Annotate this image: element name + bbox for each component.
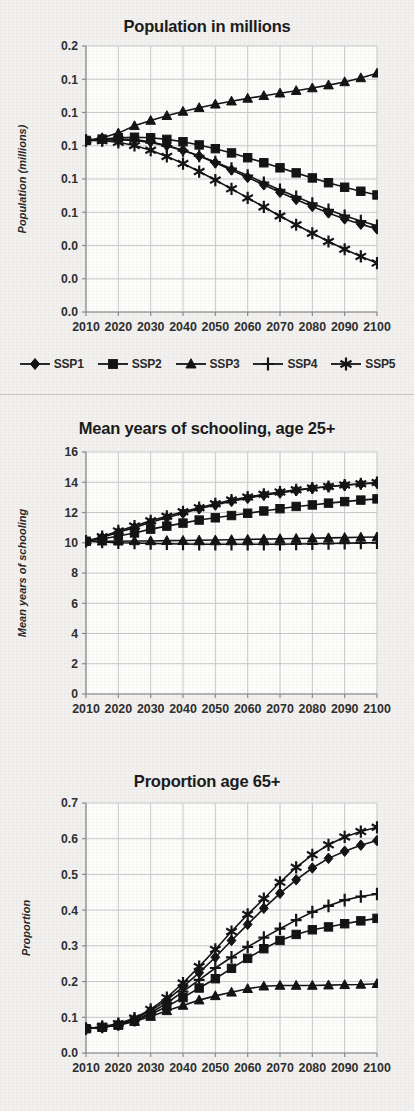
y-axis-tick-label: 0.1 — [61, 73, 78, 87]
legend-marker-asterisk-icon — [330, 356, 362, 372]
x-axis-tick-label: 2050 — [202, 320, 230, 334]
legend-marker-square-icon — [97, 356, 129, 372]
marker-square — [195, 516, 203, 524]
x-axis-tick-label: 2100 — [363, 702, 391, 716]
marker-square — [211, 975, 219, 983]
x-axis-tick-label: 2040 — [169, 320, 197, 334]
y-axis-tick-label: 0.3 — [61, 939, 78, 953]
marker-square — [308, 174, 316, 182]
marker-square — [292, 930, 300, 938]
x-axis-tick-label: 2010 — [72, 320, 100, 334]
marker-square — [163, 522, 171, 530]
marker-square — [227, 964, 235, 972]
legend-label: SSP2 — [132, 357, 162, 371]
x-axis-tick-label: 2090 — [331, 702, 359, 716]
x-axis-tick-label: 2050 — [202, 702, 230, 716]
x-axis-tick-label: 2060 — [234, 320, 262, 334]
marker-square — [243, 954, 251, 962]
marker-square — [324, 499, 332, 507]
marker-square — [243, 509, 251, 517]
marker-square — [227, 149, 235, 157]
chart-panel-population: Population in millions 0.20.10.10.10.10.… — [0, 0, 414, 395]
legend: SSP1SSP2SSP3SSP4SSP5 — [0, 356, 414, 372]
marker-square — [108, 360, 117, 369]
marker-square — [179, 519, 187, 527]
marker-square — [340, 920, 348, 928]
marker-square — [260, 945, 268, 953]
y-axis-tick-label: 0.1 — [61, 106, 78, 120]
marker-square — [357, 187, 365, 195]
y-axis-tick-label: 0.7 — [61, 796, 78, 810]
y-axis-tick-label: 6 — [71, 597, 78, 611]
chart-plot-proportion: 0.70.60.50.40.30.20.10.02010202020302040… — [0, 791, 414, 1111]
marker-square — [373, 914, 381, 922]
chart-title-population: Population in millions — [0, 0, 414, 36]
y-axis-tick-label: 16 — [64, 445, 78, 459]
y-axis-tick-label: 0.4 — [61, 904, 78, 918]
x-axis-tick-label: 2070 — [266, 1061, 294, 1075]
marker-square — [308, 501, 316, 509]
y-axis-tick-label: 14 — [64, 476, 78, 490]
marker-square — [308, 926, 316, 934]
x-axis-tick-label: 2010 — [72, 702, 100, 716]
y-axis-tick-label: 0.1 — [61, 139, 78, 153]
marker-square — [324, 923, 332, 931]
chart-plot-schooling: 1614121086420201020202030204020502060207… — [0, 438, 414, 738]
y-axis-tick-label: 4 — [71, 627, 78, 641]
marker-square — [357, 917, 365, 925]
chart-title-schooling: Mean years of schooling, age 25+ — [0, 395, 414, 438]
x-axis-tick-label: 2040 — [169, 702, 197, 716]
y-axis-tick-label: 2 — [71, 657, 78, 671]
x-axis-tick-label: 2090 — [331, 320, 359, 334]
y-axis-title: Mean years of schooling — [16, 509, 28, 638]
legend-item-ssp5[interactable]: SSP5 — [330, 356, 395, 372]
x-axis-tick-label: 2020 — [105, 702, 133, 716]
legend-item-ssp3[interactable]: SSP3 — [175, 356, 240, 372]
marker-square — [373, 191, 381, 199]
chart-plot-population: 0.20.10.10.10.10.10.00.00.02010202020302… — [0, 36, 414, 351]
x-axis-tick-label: 2040 — [169, 1061, 197, 1075]
x-axis-tick-label: 2090 — [331, 1061, 359, 1075]
x-axis-tick-label: 2070 — [266, 702, 294, 716]
legend-item-ssp4[interactable]: SSP4 — [252, 356, 317, 372]
x-axis-tick-label: 2010 — [72, 1061, 100, 1075]
legend-label: SSP3 — [210, 357, 240, 371]
y-axis-tick-label: 10 — [64, 536, 78, 550]
y-axis-tick-label: 0.6 — [61, 832, 78, 846]
y-axis-tick-label: 0.1 — [61, 172, 78, 186]
y-axis-title: Proportion — [20, 900, 32, 956]
chart-panel-schooling: Mean years of schooling, age 25+ 1614121… — [0, 395, 414, 740]
legend-label: SSP1 — [54, 357, 84, 371]
x-axis-tick-label: 2080 — [299, 320, 327, 334]
y-axis-title: Population (millions) — [16, 124, 28, 233]
marker-square — [276, 164, 284, 172]
x-axis-tick-label: 2020 — [105, 320, 133, 334]
legend-item-ssp1[interactable]: SSP1 — [19, 356, 84, 372]
marker-square — [211, 514, 219, 522]
legend-item-ssp2[interactable]: SSP2 — [97, 356, 162, 372]
y-axis-tick-label: 0.1 — [61, 1011, 78, 1025]
schooling-line-chart: 1614121086420201020202030204020502060207… — [0, 438, 414, 738]
x-axis-tick-label: 2080 — [299, 702, 327, 716]
y-axis-tick-label: 0.0 — [61, 239, 78, 253]
chart-panel-proportion: Proportion age 65+ 0.70.60.50.40.30.20.1… — [0, 740, 414, 1111]
legend-marker-triangle-icon — [175, 356, 207, 372]
marker-square — [227, 511, 235, 519]
legend-label: SSP5 — [365, 357, 395, 371]
marker-square — [243, 154, 251, 162]
legend-label: SSP4 — [287, 357, 317, 371]
marker-square — [340, 497, 348, 505]
x-axis-tick-label: 2030 — [137, 320, 165, 334]
marker-square — [276, 936, 284, 944]
legend-marker-plus-icon — [252, 356, 284, 372]
y-axis-tick-label: 12 — [64, 506, 78, 520]
y-axis-tick-label: 0.0 — [61, 305, 78, 319]
y-axis-tick-label: 0.1 — [61, 206, 78, 220]
y-axis-tick-label: 0.5 — [61, 868, 78, 882]
marker-square — [373, 495, 381, 503]
marker-square — [260, 507, 268, 515]
x-axis-tick-label: 2020 — [105, 1061, 133, 1075]
marker-square — [260, 159, 268, 167]
y-axis-tick-label: 8 — [71, 566, 78, 580]
marker-square — [324, 179, 332, 187]
